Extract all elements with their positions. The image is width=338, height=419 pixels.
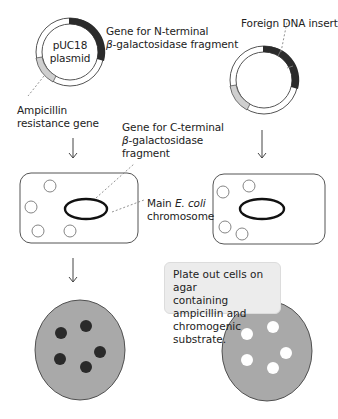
chromosome-label: Main E. coli chromosome	[147, 197, 214, 223]
ampicillin-label: Ampicillin resistance gene	[17, 104, 99, 130]
blue-colony	[94, 346, 106, 358]
plasmid-label: pUC18 plasmid	[46, 39, 94, 65]
white-colony	[267, 362, 279, 374]
ampicillin-leader	[28, 76, 44, 96]
arrow-down-left-1	[69, 138, 77, 158]
white-colony	[280, 347, 292, 359]
n-terminal-gene-label: Gene for N-terminal β-galactosidase frag…	[106, 25, 238, 51]
plating-instruction-callout: Plate out cells on agar containing ampic…	[164, 262, 281, 314]
arrow-down-left-2	[69, 258, 77, 282]
blue-colony	[55, 327, 67, 339]
foreign-insert-label: Foreign DNA insert	[241, 17, 338, 30]
agar-plate-left	[35, 300, 125, 400]
cell-right	[213, 174, 325, 244]
blue-colony	[54, 353, 66, 365]
cell-left	[20, 173, 138, 243]
blue-colony	[80, 361, 92, 373]
blue-colony	[80, 320, 92, 332]
arrow-down-right-1	[258, 130, 266, 158]
white-colony	[241, 354, 253, 366]
plasmid-right	[230, 46, 299, 114]
c-terminal-gene-label: Gene for C-terminal β-galactosidase frag…	[122, 121, 224, 160]
